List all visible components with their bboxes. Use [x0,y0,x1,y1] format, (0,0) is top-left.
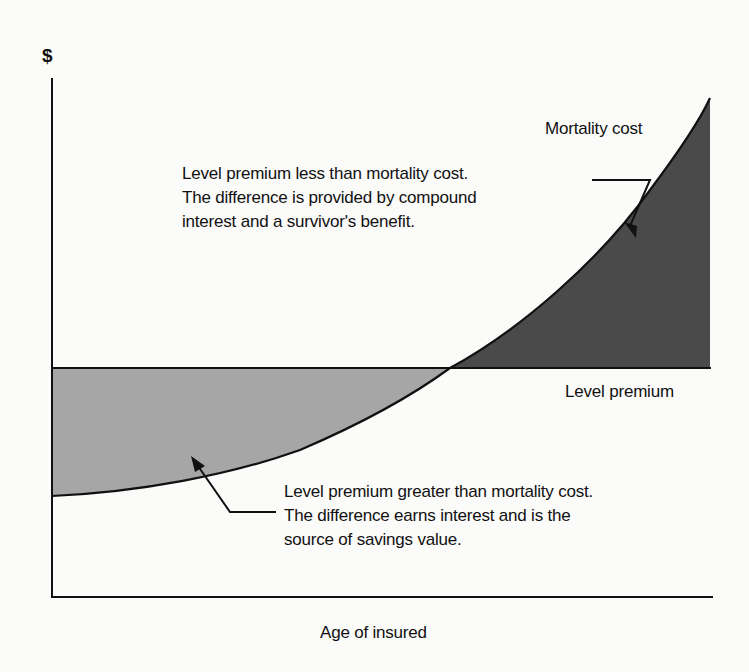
chart-canvas [0,0,749,672]
lower-note-line-2: The difference earns interest and is the [284,504,593,528]
upper-annotation: Level premium less than mortality cost. … [182,162,477,234]
upper-note-line-3: interest and a survivor's benefit. [182,210,477,234]
lower-note-line-3: source of savings value. [284,528,593,552]
upper-note-line-2: The difference is provided by compound [182,186,477,210]
upper-note-line-1: Level premium less than mortality cost. [182,162,477,186]
x-axis-label: Age of insured [320,621,427,645]
y-axis-label: $ [42,44,52,68]
surplus-region [52,368,450,496]
lower-note-line-1: Level premium greater than mortality cos… [284,480,593,504]
lower-annotation: Level premium greater than mortality cos… [284,480,593,552]
level-premium-label: Level premium [565,380,674,404]
mortality-cost-label: Mortality cost [545,117,642,141]
